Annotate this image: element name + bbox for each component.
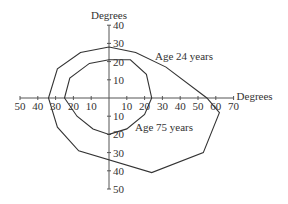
annotation-age-24: Age 24 years — [155, 50, 213, 62]
x-tick-label: 60 — [210, 100, 222, 112]
y-tick-label: 30 — [113, 37, 125, 49]
y-tick-label: 10 — [113, 110, 125, 122]
y-tick-label: 20 — [113, 56, 125, 68]
x-tick-label: 40 — [32, 100, 44, 112]
y-tick-label: 40 — [113, 165, 125, 177]
y-tick-label: 10 — [113, 74, 125, 86]
x-tick-label: 20 — [139, 100, 151, 112]
labels: Age 24 yearsAge 75 years — [135, 50, 213, 133]
x-axis-label: Degrees — [237, 90, 273, 102]
visual-field-chart: 5040302010102030405060704030201010203040… — [0, 0, 288, 204]
x-tick-label: 10 — [86, 100, 98, 112]
y-axis-label: Degrees — [91, 9, 127, 21]
axes: 5040302010102030405060704030201010203040… — [15, 9, 273, 195]
x-tick-label: 50 — [15, 100, 27, 112]
y-tick-label: 30 — [113, 147, 125, 159]
y-tick-label: 50 — [113, 183, 125, 195]
x-tick-label: 50 — [193, 100, 205, 112]
x-tick-label: 30 — [157, 100, 169, 112]
annotation-age-75: Age 75 years — [135, 121, 193, 133]
x-tick-label: 40 — [175, 100, 187, 112]
